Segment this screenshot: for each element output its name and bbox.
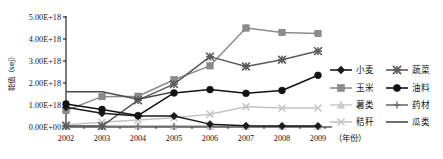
marker-square — [99, 93, 105, 99]
x-axis-tick-label: 2008 — [274, 134, 290, 143]
marker-diamond — [337, 66, 345, 74]
y-axis-tick-label: 5.00E+18 — [29, 13, 61, 22]
marker-square — [243, 25, 249, 31]
chart-root: 0.00E+001.00E+182.00E+183.00E+184.00E+18… — [0, 0, 443, 159]
y-axis-tick-label: 1.00E+18 — [29, 101, 61, 110]
marker-square — [207, 63, 213, 69]
legend-item-小麦[interactable]: 小麦 — [330, 64, 374, 75]
legend-label: 薯类 — [356, 99, 374, 110]
x-axis-tick-label: 2005 — [166, 134, 182, 143]
chart-canvas: 0.00E+001.00E+182.00E+183.00E+184.00E+18… — [0, 0, 443, 159]
marker-circle — [315, 72, 322, 79]
x-axis-tick-label: 2003 — [94, 134, 110, 143]
legend-item-薯类[interactable]: 薯类 — [330, 99, 374, 110]
y-axis-tick-label: 0.00E+00 — [29, 123, 61, 132]
marker-circle — [99, 106, 106, 113]
marker-circle — [393, 84, 400, 91]
legend-item-玉米[interactable]: 玉米 — [330, 82, 374, 93]
legend-label: 蔬菜 — [412, 64, 430, 75]
legend-item-蔬菜[interactable]: 蔬菜 — [386, 64, 430, 75]
series-瓜类 — [66, 92, 174, 99]
x-axis-tick-label: 2009 — [310, 134, 326, 143]
legend-item-秸秆[interactable]: 秸秆 — [330, 116, 374, 127]
legend-label: 玉米 — [356, 82, 374, 93]
marker-circle — [135, 112, 142, 119]
y-axis-tick-label: 3.00E+18 — [29, 57, 61, 66]
marker-circle — [243, 90, 250, 97]
x-axis-tick-label: 2004 — [130, 134, 146, 143]
x-axis-tick-label: 2007 — [238, 134, 254, 143]
marker-square — [338, 85, 345, 92]
legend-item-药材[interactable]: 药材 — [386, 99, 430, 110]
marker-circle — [207, 86, 214, 93]
x-axis-caption: （年份） — [334, 133, 366, 143]
y-axis-tick-label: 2.00E+18 — [29, 79, 61, 88]
marker-square — [315, 30, 321, 36]
y-axis-tick-label: 4.00E+18 — [29, 35, 61, 44]
marker-circle — [171, 90, 178, 97]
x-axis-tick-label: 2006 — [202, 134, 218, 143]
series-line — [66, 92, 174, 99]
legend-label: 秸秆 — [356, 116, 374, 127]
x-axis-tick-label: 2002 — [58, 134, 74, 143]
line-chart: 0.00E+001.00E+182.00E+183.00E+184.00E+18… — [0, 0, 443, 159]
y-axis-title: 能值（sej） — [7, 53, 16, 91]
marker-circle — [63, 101, 70, 108]
legend-label: 小麦 — [356, 64, 374, 75]
legend-item-油料[interactable]: 油料 — [386, 82, 430, 93]
legend-label: 油料 — [412, 82, 430, 93]
marker-circle — [279, 87, 286, 94]
legend-label: 瓜类 — [412, 116, 430, 127]
legend-item-瓜类[interactable]: 瓜类 — [386, 116, 430, 127]
series-玉米 — [63, 25, 321, 114]
legend-label: 药材 — [412, 99, 430, 110]
marker-square — [279, 29, 285, 35]
